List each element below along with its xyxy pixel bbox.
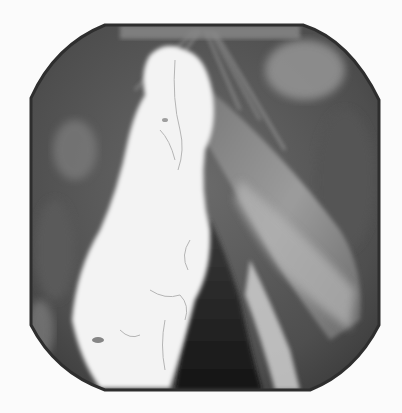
image-content xyxy=(0,0,402,413)
endoscopic-image xyxy=(0,0,402,413)
endoscopic-image-svg xyxy=(0,0,402,413)
